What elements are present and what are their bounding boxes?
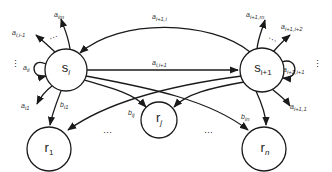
edge-a-i+1-i [80,27,250,53]
label-a-i+1-i: ai+1,i [152,13,167,23]
node-label-r-n: rn [261,141,270,158]
edge-a-im [61,19,70,49]
label-a-i+1-1: ai+1,1 [290,103,307,113]
edge-a-i1 [37,86,52,104]
edge-b-i+1-n [256,91,266,125]
label-a-i1: ai1 [21,102,29,112]
edge-a-i+1-1 [272,89,290,106]
label-a-im: aim [54,11,64,21]
edge-a-ii-self-loop [34,62,46,76]
ellipsis-r-j-to-r-n: ··· [204,128,213,137]
label-a-i-i+1: ai,i+1 [152,59,167,69]
node-label-r-1: r1 [45,141,54,158]
node-label-s-i: si [62,61,70,78]
label-a-ii: aii [23,64,30,74]
edge-a-i+1-m [257,20,265,49]
node-label-r-j: rj [156,111,162,128]
label-b-i1: bi1 [60,101,68,111]
node-label-s-i+1: si+1 [254,61,271,78]
label-b-in: bin [241,113,249,123]
label-a-i+1-i+2: ai+1,i+2 [281,23,302,33]
label-a-i+1-m: ai+1,m [246,11,264,21]
edge-b-ij [84,80,146,107]
label-b-ij: bij [128,109,135,119]
label-a-i-i-1: ai,i-1 [12,29,25,39]
label-a-i+1-i+1: ai+1,i+1 [283,66,304,76]
ellipsis-r-1-to-r-j: ··· [103,128,112,137]
ellipsis-s-i+1-right: ⋮ [313,62,317,66]
ellipsis-s-i-left: ⋮ [11,62,15,66]
